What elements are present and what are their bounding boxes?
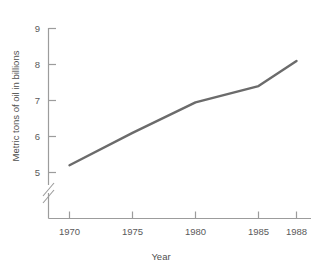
y-tick-label-5: 5 (35, 167, 40, 178)
x-tick-label-1988: 1988 (286, 226, 307, 237)
x-tick-marks (70, 212, 297, 219)
y-tick-label-7: 7 (35, 95, 40, 106)
y-tick-label-9: 9 (35, 23, 40, 34)
x-tick-label-1970: 1970 (59, 226, 80, 237)
x-tick-label-1980: 1980 (185, 226, 206, 237)
data-series-line (70, 61, 297, 165)
x-axis-title: Year (151, 251, 170, 262)
x-tick-label-1975: 1975 (122, 226, 143, 237)
y-tick-label-6: 6 (35, 131, 40, 142)
line-chart-figure: 9 8 7 6 5 1970 1975 1980 1985 1988 Year … (0, 0, 322, 271)
y-tick-marks (49, 29, 57, 173)
chart-canvas: 9 8 7 6 5 1970 1975 1980 1985 1988 Year … (0, 0, 322, 271)
y-axis-title: Metric tons of oil in billions (10, 50, 21, 161)
y-tick-label-8: 8 (35, 59, 40, 70)
x-tick-label-1985: 1985 (248, 226, 269, 237)
